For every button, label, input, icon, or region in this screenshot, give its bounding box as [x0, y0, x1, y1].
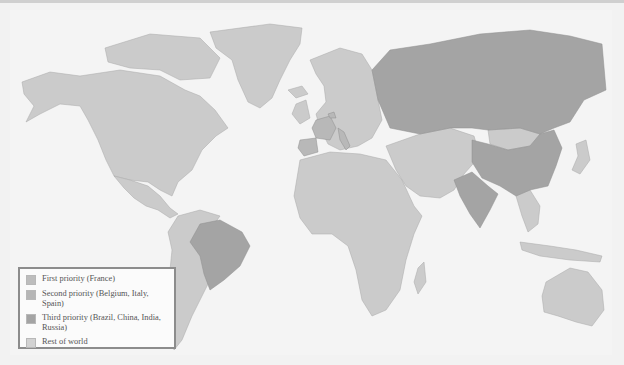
- southeast-asia: [516, 190, 540, 232]
- russia: [372, 30, 606, 134]
- legend-swatch-third: [26, 314, 36, 324]
- greenland: [210, 24, 302, 108]
- top-bar: [0, 0, 624, 3]
- legend-swatch-rest: [26, 338, 36, 348]
- legend-item-second-priority: Second priority (Belgium, Italy, Spain): [26, 289, 168, 309]
- legend-item-first-priority: First priority (France): [26, 274, 168, 285]
- map-legend: First priority (France) Second priority …: [18, 267, 176, 349]
- legend-swatch-second: [26, 290, 36, 300]
- world-map-panel: First priority (France) Second priority …: [10, 10, 612, 355]
- spain: [298, 138, 318, 156]
- north-america: [22, 70, 228, 196]
- legend-label: Rest of world: [42, 337, 88, 347]
- legend-item-third-priority: Third priority (Brazil, China, India, Ru…: [26, 313, 168, 333]
- australia: [542, 268, 604, 326]
- legend-label: Third priority (Brazil, China, India, Ru…: [42, 313, 168, 333]
- legend-item-rest-of-world: Rest of world: [26, 337, 168, 348]
- legend-label: Second priority (Belgium, Italy, Spain): [42, 289, 168, 309]
- legend-swatch-first: [26, 275, 36, 285]
- legend-label: First priority (France): [42, 274, 115, 284]
